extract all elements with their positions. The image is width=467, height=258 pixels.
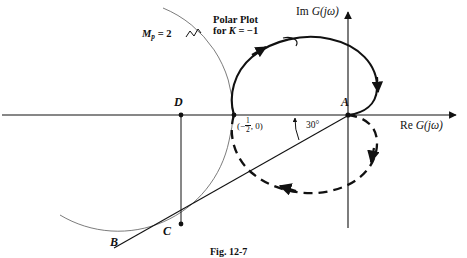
polar-plot-label-line2: for K = −1 [213, 25, 258, 36]
mp-circle-label-rest: = 2 [155, 28, 171, 39]
mp-circle-arc [60, 8, 233, 231]
critical-point-label: (−12, 0) [237, 117, 263, 133]
polar-plot-label-line2-prefix: for [213, 25, 229, 36]
polar-plot-upper-curve [232, 37, 377, 115]
polar-plot-canvas [0, 0, 467, 258]
imaginary-axis-label-prefix: Im [296, 5, 312, 17]
imaginary-axis-label-func: G(jω) [312, 5, 339, 17]
point-label-a: A [341, 96, 349, 109]
upper-curve-arrow-2 [377, 77, 378, 92]
critical-point-open: (− [237, 121, 245, 131]
polar-plot-label: Polar Plot for K = −1 [213, 14, 258, 36]
polar-plot-label-line1: Polar Plot [213, 14, 258, 25]
real-axis-label-prefix: Re [400, 119, 416, 131]
point-marker-critical [232, 113, 237, 118]
polar-plot-label-line2-rest: = −1 [236, 25, 258, 36]
angle-arc-30deg [295, 118, 299, 140]
figure-container: Im G(jω) Re G(jω) Mp = 2 Polar Plot for … [0, 0, 467, 258]
polar-plot-label-line2-k: K [229, 25, 236, 36]
point-label-c: C [163, 225, 171, 238]
figure-caption: Fig. 12-7 [210, 247, 247, 258]
point-label-d: D [174, 96, 183, 109]
real-axis-label: Re G(jω) [400, 119, 443, 131]
mp-circle-label-main: M [142, 28, 151, 39]
imaginary-axis-label: Im G(jω) [296, 5, 339, 17]
real-axis-label-func: G(jω) [416, 119, 443, 131]
mp-leader-line [186, 29, 201, 37]
upper-curve-arrow-1 [252, 47, 266, 55]
point-marker-d [179, 113, 184, 118]
point-label-b: B [110, 236, 118, 249]
point-marker-c [179, 222, 184, 227]
mp-circle-label: Mp = 2 [142, 28, 172, 41]
critical-point-close: , 0) [251, 121, 263, 131]
angle-label-30deg: 30° [306, 121, 319, 131]
point-marker-a [345, 112, 350, 117]
